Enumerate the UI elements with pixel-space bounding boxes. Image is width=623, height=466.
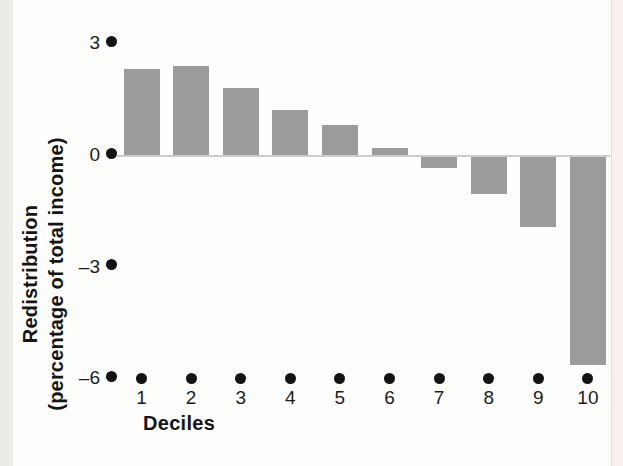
x-axis-title: Deciles	[143, 412, 215, 435]
x-tick-dot	[384, 373, 395, 384]
bar-decile-7	[421, 157, 457, 168]
y-tick-dot	[106, 371, 117, 382]
x-tick-label: 10	[570, 388, 606, 408]
x-tick-dot	[533, 373, 544, 384]
bar-decile-9	[520, 157, 556, 228]
y-tick-dot	[106, 259, 117, 270]
x-tick-dot	[235, 373, 246, 384]
y-tick-label: 3	[56, 33, 100, 53]
y-tick-dot	[106, 148, 117, 159]
x-tick-dot	[334, 373, 345, 384]
x-tick-dot	[483, 373, 494, 384]
page-scan-left-band	[0, 0, 13, 466]
y-tick-label: –3	[56, 257, 100, 277]
x-tick-label: 2	[173, 388, 209, 408]
bar-decile-2	[173, 66, 209, 155]
x-tick-dot	[582, 373, 593, 384]
y-tick-label: 0	[56, 145, 100, 165]
bar-decile-8	[471, 157, 507, 194]
x-tick-label: 3	[223, 388, 259, 408]
x-tick-label: 1	[124, 388, 160, 408]
bar-decile-6	[372, 148, 408, 155]
bar-decile-10	[570, 157, 606, 365]
x-tick-label: 6	[372, 388, 408, 408]
x-tick-dot	[136, 373, 147, 384]
x-tick-dot	[285, 373, 296, 384]
x-tick-label: 7	[421, 388, 457, 408]
bar-decile-5	[322, 125, 358, 155]
redistribution-bar-chart: Redistribution (percentage of total inco…	[0, 0, 623, 466]
bar-decile-3	[223, 88, 259, 155]
y-axis-title-line1: Redistribution	[17, 109, 43, 439]
x-tick-dot	[186, 373, 197, 384]
x-tick-label: 4	[272, 388, 308, 408]
x-tick-label: 5	[322, 388, 358, 408]
bar-decile-1	[124, 69, 160, 155]
page-scan-right-band	[611, 0, 623, 466]
x-tick-label: 8	[471, 388, 507, 408]
x-tick-label: 9	[520, 388, 556, 408]
y-tick-dot	[106, 36, 117, 47]
y-tick-label: –6	[56, 368, 100, 388]
x-tick-dot	[434, 373, 445, 384]
bar-decile-4	[272, 110, 308, 155]
